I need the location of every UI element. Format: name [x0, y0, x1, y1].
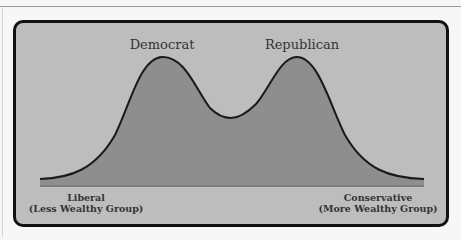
democrat-peak-label: Democrat: [130, 37, 195, 52]
less-wealthy-label: (Less Wealthy Group): [29, 203, 144, 214]
more-wealthy-label: (More Wealthy Group): [318, 203, 437, 214]
conservative-axis-label: Conservative (More Wealthy Group): [318, 192, 437, 214]
curve-fill: [40, 57, 424, 187]
liberal-axis-label: Liberal (Less Wealthy Group): [29, 192, 144, 214]
liberal-label: Liberal: [29, 192, 144, 203]
republican-peak-label: Republican: [265, 37, 339, 52]
conservative-label: Conservative: [318, 192, 437, 203]
